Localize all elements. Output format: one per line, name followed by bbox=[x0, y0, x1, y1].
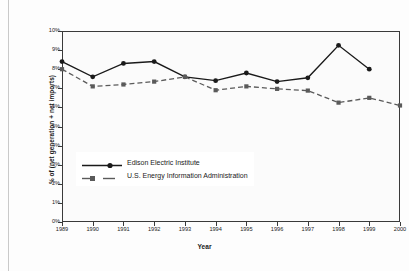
y-tick-label: 2% bbox=[38, 181, 60, 187]
y-tick-label: 1% bbox=[38, 200, 60, 206]
x-tick-label: 1999 bbox=[352, 226, 386, 232]
y-tick-mark bbox=[58, 127, 62, 128]
plot-area bbox=[62, 31, 400, 222]
x-tick-mark bbox=[339, 222, 340, 226]
y-tick-mark bbox=[58, 165, 62, 166]
chart-legend: Edison Electric Institute U.S. Energy In… bbox=[76, 152, 254, 186]
y-tick-mark bbox=[58, 146, 62, 147]
x-tick-mark bbox=[308, 222, 309, 226]
x-tick-mark bbox=[246, 222, 247, 226]
legend-key-solid-circle bbox=[81, 157, 123, 168]
scanned-page: % of (net generation + net imports) 0%1%… bbox=[0, 0, 409, 271]
x-tick-mark bbox=[277, 222, 278, 226]
legend-item-eei: Edison Electric Institute bbox=[81, 156, 248, 169]
x-tick-label: 1997 bbox=[291, 226, 325, 232]
x-tick-mark bbox=[216, 222, 217, 226]
y-tick-mark bbox=[58, 31, 62, 32]
y-tick-label: 0% bbox=[38, 219, 60, 225]
line-chart-figure: % of (net generation + net imports) 0%1%… bbox=[0, 0, 409, 271]
x-tick-mark bbox=[123, 222, 124, 226]
legend-label-eia: U.S. Energy Information Administration bbox=[127, 172, 248, 179]
legend-key-dashed-square bbox=[81, 170, 123, 181]
x-tick-label: 1998 bbox=[322, 226, 356, 232]
y-tick-label: 8% bbox=[38, 66, 60, 72]
x-tick-mark bbox=[62, 222, 63, 226]
x-tick-label: 1992 bbox=[137, 226, 171, 232]
x-tick-mark bbox=[400, 222, 401, 226]
x-tick-label: 2000 bbox=[383, 226, 409, 232]
x-tick-label: 1994 bbox=[199, 226, 233, 232]
x-tick-label: 1993 bbox=[168, 226, 202, 232]
y-tick-mark bbox=[58, 184, 62, 185]
x-tick-mark bbox=[185, 222, 186, 226]
y-tick-mark bbox=[58, 88, 62, 89]
legend-label-eei: Edison Electric Institute bbox=[127, 159, 200, 166]
y-tick-label: 7% bbox=[38, 85, 60, 91]
legend-item-eia: U.S. Energy Information Administration bbox=[81, 169, 248, 182]
y-axis-title: % of (net generation + net imports) bbox=[48, 35, 55, 225]
x-tick-label: 1996 bbox=[260, 226, 294, 232]
y-tick-label: 10% bbox=[38, 28, 60, 34]
y-tick-label: 6% bbox=[38, 104, 60, 110]
y-tick-label: 9% bbox=[38, 47, 60, 53]
y-tick-mark bbox=[58, 107, 62, 108]
x-tick-mark bbox=[93, 222, 94, 226]
x-tick-label: 1989 bbox=[45, 226, 79, 232]
y-tick-mark bbox=[58, 50, 62, 51]
x-tick-label: 1991 bbox=[106, 226, 140, 232]
y-tick-label: 4% bbox=[38, 143, 60, 149]
y-tick-mark bbox=[58, 203, 62, 204]
y-tick-mark bbox=[58, 69, 62, 70]
x-tick-mark bbox=[154, 222, 155, 226]
y-tick-label: 3% bbox=[38, 162, 60, 168]
x-tick-label: 1995 bbox=[229, 226, 263, 232]
x-tick-mark bbox=[369, 222, 370, 226]
y-tick-label: 5% bbox=[38, 124, 60, 130]
x-tick-label: 1990 bbox=[76, 226, 110, 232]
x-axis-title: Year bbox=[0, 243, 409, 250]
